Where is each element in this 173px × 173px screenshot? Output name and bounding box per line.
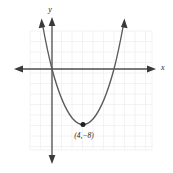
parabola-right-arrowhead: [121, 19, 128, 29]
parabola-left-arrowhead: [39, 19, 46, 29]
vertex-point-marker: [81, 122, 86, 127]
graph-figure: x y (4,−8): [0, 0, 173, 173]
y-axis: [49, 17, 56, 164]
y-axis-label: y: [47, 5, 52, 14]
y-axis-top-arrowhead: [49, 17, 56, 26]
x-axis-right-arrowhead: [147, 66, 156, 73]
x-axis-label: x: [160, 63, 165, 72]
y-axis-bottom-arrowhead: [49, 155, 56, 164]
vertex-label: (4,−8): [74, 131, 94, 140]
coordinate-plane-svg: x y (4,−8): [0, 0, 173, 173]
x-axis-left-arrowhead: [14, 66, 23, 73]
